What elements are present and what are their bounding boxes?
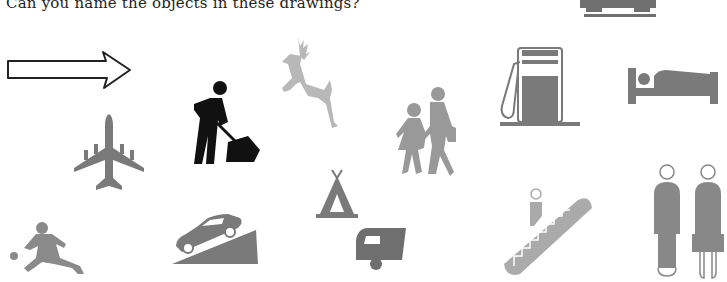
car-icon	[578, 0, 658, 18]
arrow-right-icon	[6, 50, 132, 92]
page-title: Can you name the objects in these drawin…	[6, 0, 360, 12]
toilets-icon	[650, 164, 727, 280]
tent-icon	[314, 168, 360, 220]
bed-icon	[626, 66, 720, 106]
escalator-icon	[498, 186, 594, 280]
deer-icon	[278, 34, 340, 129]
airplane-icon	[72, 114, 146, 192]
road-works-icon	[190, 78, 265, 166]
fuel-pump-icon	[496, 46, 582, 128]
football-player-icon	[8, 222, 88, 276]
steep-hill-icon	[172, 212, 260, 266]
children-icon	[396, 86, 462, 178]
caravan-icon	[354, 226, 408, 272]
